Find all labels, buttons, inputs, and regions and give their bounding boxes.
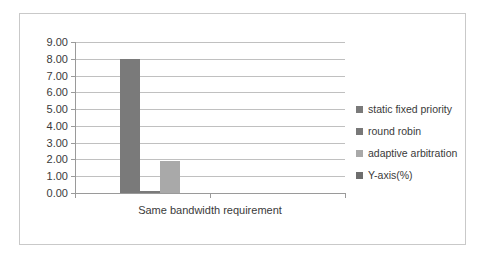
legend-item-2[interactable]: adaptive arbitration [356,142,484,164]
legend-swatch-icon [356,172,363,179]
chart-legend: static fixed priorityround robinadaptive… [356,98,484,186]
y-axis-tick [71,109,75,110]
bar-group [76,42,346,193]
y-axis-tick [71,176,75,177]
legend-item-0[interactable]: static fixed priority [356,98,484,120]
y-axis-tick [71,92,75,93]
y-axis-tick-label: 5.00 [47,104,68,115]
legend-swatch-icon [356,106,363,113]
y-axis-tick-label: 8.00 [47,54,68,65]
y-axis-tick [71,126,75,127]
legend-swatch-icon [356,150,363,157]
x-axis-label: Same bandwidth requirement [75,204,345,216]
legend-item-label: static fixed priority [368,104,452,115]
bar-round-robin [140,191,160,193]
y-axis-tick-label: 7.00 [47,71,68,82]
y-axis-tick-label: 4.00 [47,121,68,132]
y-axis-tick-label: 2.00 [47,154,68,165]
chart-frame: 9.008.007.006.005.004.003.002.001.000.00… [19,13,466,245]
y-axis-tick [71,42,75,43]
bar-static-fixed-priority [120,59,140,193]
legend-item-label: adaptive arbitration [368,148,457,159]
y-axis-tick [71,159,75,160]
y-axis-labels: 9.008.007.006.005.004.003.002.001.000.00 [20,14,68,214]
y-axis-tick-label: 0.00 [47,188,68,199]
legend-item-label: Y-axis(%) [368,170,413,181]
legend-item-3[interactable]: Y-axis(%) [356,164,484,186]
legend-item-1[interactable]: round robin [356,120,484,142]
x-axis-tick [75,194,76,198]
y-axis-tick-label: 1.00 [47,171,68,182]
y-axis-tick-label: 9.00 [47,37,68,48]
x-axis-tick [210,194,211,198]
x-axis-tick [345,194,346,198]
y-axis-tick [71,143,75,144]
y-axis-tick [71,59,75,60]
legend-swatch-icon [356,128,363,135]
y-axis-tick [71,76,75,77]
bar-adaptive-arbitration [160,161,180,193]
y-axis-tick-label: 3.00 [47,138,68,149]
chart-page: 9.008.007.006.005.004.003.002.001.000.00… [0,0,487,261]
legend-item-label: round robin [368,126,421,137]
y-axis-tick-label: 6.00 [47,87,68,98]
